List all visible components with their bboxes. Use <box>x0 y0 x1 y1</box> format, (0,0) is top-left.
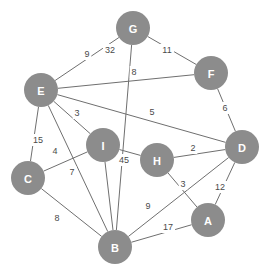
graph-node-g[interactable]: G <box>116 11 150 45</box>
edge-weight-label: 4 <box>52 146 57 156</box>
graph-node-c[interactable]: C <box>11 161 45 195</box>
edge-weight-label: 5 <box>149 107 154 117</box>
graph-node-d[interactable]: D <box>225 130 259 164</box>
edge-weight-label: 9 <box>84 49 89 59</box>
node-label-f: F <box>208 68 215 80</box>
node-label-d: D <box>238 142 246 154</box>
edge-weight-label: 17 <box>163 222 173 232</box>
graph-edge-c-i <box>44 152 88 171</box>
edge-weight-label: 7 <box>69 167 74 177</box>
edge-weight-label: 9 <box>145 201 150 211</box>
graph-edge-c-b <box>41 189 101 237</box>
graph-node-f[interactable]: F <box>194 56 228 90</box>
node-label-h: H <box>153 155 161 167</box>
edge-weight-label: 6 <box>222 103 227 113</box>
edge-weight-label: 8 <box>131 67 136 77</box>
edge-weight-label: 32 <box>105 45 115 55</box>
edge-weight-label: 8 <box>54 213 59 223</box>
graph-node-e[interactable]: E <box>24 73 58 107</box>
edge-weight-label: 11 <box>162 45 171 55</box>
graph-node-b[interactable]: B <box>98 230 132 264</box>
node-label-a: A <box>204 215 212 227</box>
graph-node-i[interactable]: I <box>86 128 120 162</box>
edge-weight-label: 15 <box>33 135 43 145</box>
edge-weight-label: 3 <box>180 179 185 189</box>
node-label-g: G <box>129 23 138 35</box>
nodes-layer: GFEDIHCAB <box>11 11 259 264</box>
edge-weight-label: 45 <box>119 155 129 165</box>
graph-diagram: 93211865315474523128917 GFEDIHCAB <box>0 0 275 275</box>
node-label-e: E <box>37 85 44 97</box>
edge-weight-label: 12 <box>215 182 225 192</box>
edge-weight-label: 2 <box>190 143 195 153</box>
node-label-b: B <box>111 242 119 254</box>
graph-edge-h-d <box>174 150 225 158</box>
graph-edge-e-d <box>57 95 225 143</box>
graph-edge-e-f <box>58 75 194 89</box>
graph-edge-i-b <box>105 162 113 230</box>
graph-node-a[interactable]: A <box>191 203 225 237</box>
graph-svg: 93211865315474523128917 GFEDIHCAB <box>0 0 275 275</box>
edge-weight-label: 3 <box>74 108 79 118</box>
graph-node-h[interactable]: H <box>140 143 174 177</box>
node-label-c: C <box>24 173 32 185</box>
node-label-i: I <box>101 140 104 152</box>
graph-edge-g-b <box>116 45 131 230</box>
